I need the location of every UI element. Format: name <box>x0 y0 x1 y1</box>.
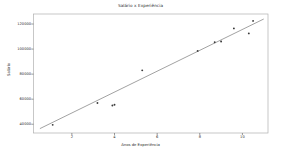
data-point <box>220 41 222 43</box>
scatter-series <box>52 20 254 126</box>
data-point <box>97 102 99 104</box>
data-point <box>52 124 54 126</box>
plot-area <box>0 0 281 154</box>
data-point <box>248 32 250 34</box>
chart-figure: Salário x Experiência Salário Anos de Ex… <box>0 0 281 154</box>
data-point <box>233 27 235 29</box>
data-point <box>141 69 143 71</box>
data-point <box>111 104 113 106</box>
data-point <box>252 20 254 22</box>
axes-frame <box>34 14 269 133</box>
data-point <box>114 104 116 106</box>
regression-line <box>40 19 264 129</box>
